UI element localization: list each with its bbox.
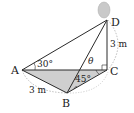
angle-label-30: 30° (37, 59, 53, 69)
length-label-ab: 3 m (29, 85, 47, 95)
angle-label-45: 45° (75, 74, 91, 84)
point-label-c: C (110, 65, 118, 78)
angle-arc-30 (34, 63, 35, 70)
angle-label-theta: θ (88, 56, 94, 66)
balloon-icon (98, 2, 110, 18)
length-label-dc: 3 m (110, 39, 128, 49)
point-label-b: B (62, 97, 70, 110)
right-angle-marker (102, 65, 107, 70)
geometry-diagram: D C A B 3 m 3 m 30° 45° θ (0, 0, 134, 113)
line-ad (22, 20, 107, 70)
point-label-a: A (10, 64, 20, 77)
point-label-d: D (111, 16, 120, 29)
